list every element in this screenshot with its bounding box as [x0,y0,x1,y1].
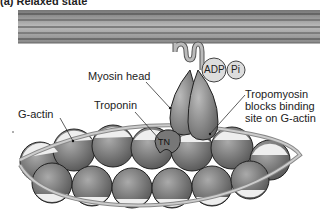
label-adp: ADP [204,64,225,76]
label-tropomyosin-1: Tropomyosin [245,88,308,100]
label-tn: TN [158,136,170,148]
label-tropomyosin-3: site on G-actin [245,112,316,124]
label-myosin-head: Myosin head [88,70,150,82]
thick-filament [18,10,320,43]
myosin-neck-coil [175,43,202,70]
label-g-actin: G-actin [18,108,53,120]
label-troponin: Troponin [94,99,137,111]
label-tropomyosin-2: blocks binding [245,100,315,112]
label-pi: Pi [231,64,240,76]
panel-title: (a) Relaxed state [0,0,87,7]
